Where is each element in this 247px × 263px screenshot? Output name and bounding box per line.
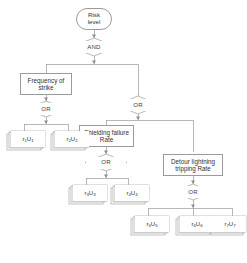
frequency-label-line2: strike <box>38 84 53 91</box>
or-gate-4-label[interactable]: OR <box>173 186 213 198</box>
and-gate-label[interactable]: AND <box>71 41 117 53</box>
basic-event-r4u4[interactable]: r4U4 <box>115 185 149 201</box>
basic-event-r2u2[interactable]: r2U2 <box>55 131 89 147</box>
or-gate-2-label[interactable]: OR <box>116 99 160 111</box>
top-event-risk-level[interactable]: Risk level <box>76 8 112 30</box>
basic-event-r5u5[interactable]: r5U5 <box>135 216 169 232</box>
basic-event-r5u5-label: r5U5 <box>146 221 157 228</box>
basic-event-r1u1[interactable]: r1U1 <box>11 131 45 147</box>
or-gate-2-text: OR <box>133 102 142 109</box>
intermediate-event-detour-lightning-tripping-rate[interactable]: Detour lightning tripping Rate <box>163 154 223 176</box>
basic-event-r7u7-label: r7U7 <box>224 221 235 228</box>
intermediate-event-frequency-of-strike[interactable]: Frequency of strike <box>20 73 72 95</box>
basic-event-r7u7[interactable]: r7U7 <box>214 216 246 232</box>
shielding-label-line1: Shielding failure <box>84 129 129 136</box>
and-gate-text: AND <box>87 44 100 51</box>
basic-event-r6u6-label: r6U6 <box>191 221 202 228</box>
arrowheads <box>44 35 195 209</box>
or-gate-3-text: OR <box>101 159 110 166</box>
basic-event-r4u4-label: r4U4 <box>126 190 137 197</box>
basic-event-r6u6[interactable]: r6U6 <box>180 216 214 232</box>
shielding-label-line2: Rate <box>100 136 113 143</box>
basic-event-r3u3[interactable]: r3U3 <box>73 185 107 201</box>
detour-label-line1: Detour lightning <box>171 158 215 165</box>
or-gate-4-text: OR <box>188 189 197 196</box>
basic-event-r2u2-label: r2U2 <box>66 136 77 143</box>
top-event-label-line2: level <box>88 19 101 26</box>
or-gate-1-label[interactable]: OR <box>26 103 66 115</box>
basic-event-r1u1-label: r1U1 <box>22 136 33 143</box>
frequency-label-line1: Frequency of <box>28 77 65 84</box>
or-gate-1-text: OR <box>41 106 50 113</box>
detour-label-line2: tripping Rate <box>175 165 211 172</box>
or-gate-3-label[interactable]: OR <box>86 157 126 169</box>
basic-event-r3u3-label: r3U3 <box>84 190 95 197</box>
